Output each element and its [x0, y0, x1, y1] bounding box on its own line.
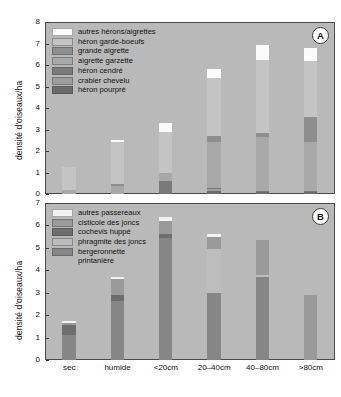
- bar-4080cm[interactable]: [256, 203, 269, 360]
- y-tick-label: 6: [36, 61, 45, 69]
- y-tick-label: 1: [36, 334, 45, 342]
- bar-segment: [207, 78, 220, 136]
- bar-segment: [304, 142, 317, 190]
- panel-a: 012345678 autres hérons/aigretteshéron g…: [45, 22, 335, 194]
- bar-segment: [256, 277, 269, 360]
- bar-segment: [207, 191, 220, 194]
- panel-a-y-axis-label: densité d'oiseaux/ha: [14, 81, 24, 160]
- bar-segment: [159, 173, 172, 181]
- legend-item: héron cendré: [52, 66, 156, 75]
- bar-segment: [111, 186, 124, 194]
- bar-segment: [159, 181, 172, 193]
- y-tick-label: 3: [36, 289, 45, 297]
- legend-label: héron cendré: [78, 66, 123, 75]
- bar-segment: [207, 293, 220, 360]
- panel-b-tag: B: [312, 208, 329, 225]
- legend-label: grande aigrette: [78, 46, 129, 55]
- legend-label: cisticole des joncs: [78, 218, 139, 227]
- legend-item: cochevis huppé: [52, 227, 146, 236]
- panel-a-tag: A: [312, 27, 329, 44]
- legend-label: phragmite des joncs: [78, 237, 146, 246]
- legend-swatch: [52, 228, 73, 236]
- bar-segment: [62, 325, 75, 335]
- bar-segment: [207, 142, 220, 188]
- bar-20cm[interactable]: [159, 22, 172, 194]
- bar-4080cm[interactable]: [256, 22, 269, 194]
- legend-label: autres passereaux: [78, 208, 140, 217]
- y-tick-label: 4: [36, 266, 45, 274]
- bar-segment: [62, 335, 75, 360]
- bar-2040cm[interactable]: [207, 22, 220, 194]
- y-tick-label: 7: [36, 199, 45, 207]
- legend-label: autres hérons/aigrettes: [78, 27, 156, 36]
- bar-segment: [159, 123, 172, 132]
- legend-item: grande aigrette: [52, 46, 156, 55]
- bar-segment: [62, 190, 75, 194]
- y-tick-label: 3: [36, 126, 45, 134]
- y-tick-label: 4: [36, 104, 45, 112]
- cropped-header-remnant: [0, 0, 341, 6]
- bar-segment: [159, 221, 172, 234]
- y-tick-label: 2: [36, 311, 45, 319]
- bar-segment: [256, 137, 269, 191]
- bar-2040cm[interactable]: [207, 203, 220, 360]
- panel-b: 01234567 autres passereauxcisticole des …: [45, 203, 335, 360]
- legend-swatch: [52, 67, 73, 75]
- bar-segment: [304, 117, 317, 143]
- legend-label: crabier chevelu: [78, 76, 130, 85]
- y-tick-label: 1: [36, 169, 45, 177]
- y-tick-label: 0: [36, 356, 45, 364]
- bar-segment: [62, 167, 75, 190]
- bar-segment: [207, 237, 220, 249]
- x-tick-label: <20cm: [154, 363, 178, 372]
- bar-segment: [207, 69, 220, 78]
- bar-80cm[interactable]: [304, 22, 317, 194]
- y-tick-label: 6: [36, 221, 45, 229]
- legend-label: héron pourpré: [78, 85, 126, 94]
- legend-swatch: [52, 38, 73, 46]
- legend-swatch: [52, 47, 73, 55]
- x-tick-label: >80cm: [299, 363, 323, 372]
- x-axis-labels: sechumide<20cm20–40cm40–80cm>80cm: [45, 363, 335, 377]
- legend-label: cochevis huppé: [78, 227, 131, 236]
- legend-item: bergeronnette printanière: [52, 247, 146, 265]
- figure-stacked-bird-density: densité d'oiseaux/ha 012345678 autres hé…: [0, 0, 341, 397]
- bar-segment: [111, 142, 124, 184]
- bar-segment: [111, 279, 124, 295]
- legend-swatch: [52, 209, 73, 217]
- y-tick-label: 5: [36, 83, 45, 91]
- panel-b-legend: autres passereauxcisticole des joncscoch…: [52, 208, 146, 266]
- bar-segment: [256, 192, 269, 194]
- bar-segment: [256, 45, 269, 60]
- bar-80cm[interactable]: [304, 203, 317, 360]
- legend-swatch: [52, 28, 73, 36]
- legend-swatch: [52, 57, 73, 65]
- legend-swatch: [52, 238, 73, 246]
- bar-segment: [207, 249, 220, 293]
- legend-item: cisticole des joncs: [52, 218, 146, 227]
- legend-item: aigrette garzette: [52, 56, 156, 65]
- legend-swatch: [52, 248, 73, 256]
- legend-label: bergeronnette printanière: [78, 247, 125, 265]
- bar-segment: [111, 301, 124, 360]
- bar-segment: [304, 295, 317, 360]
- panel-b-y-axis-label: densité d'oiseaux/ha: [14, 261, 24, 340]
- y-tick-label: 8: [36, 18, 45, 26]
- bar-segment: [256, 60, 269, 133]
- legend-item: héron pourpré: [52, 85, 156, 94]
- legend-item: crabier chevelu: [52, 76, 156, 85]
- legend-swatch: [52, 219, 73, 227]
- legend-label: héron garde-boeufs: [78, 37, 144, 46]
- legend-item: autres hérons/aigrettes: [52, 27, 156, 36]
- legend-item: autres passereaux: [52, 208, 146, 217]
- x-tick-label: 20–40cm: [198, 363, 231, 372]
- legend-swatch: [52, 77, 73, 85]
- bar-segment: [304, 192, 317, 194]
- bar-20cm[interactable]: [159, 203, 172, 360]
- bar-segment: [256, 240, 269, 275]
- bar-segment: [159, 193, 172, 195]
- bar-segment: [207, 136, 220, 143]
- bar-segment: [304, 61, 317, 117]
- legend-label: aigrette garzette: [78, 56, 133, 65]
- panel-a-legend: autres hérons/aigretteshéron garde-boeuf…: [52, 27, 156, 95]
